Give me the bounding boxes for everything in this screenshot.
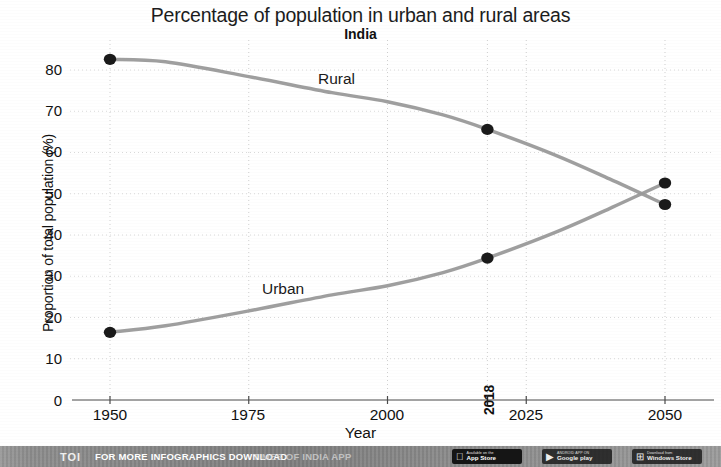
footer-brand-toi: TOI <box>60 446 81 467</box>
data-point-marker <box>659 177 671 188</box>
series-line-urban <box>110 183 665 332</box>
app-store-badge-label: App Store <box>467 455 497 461</box>
google-play-badge[interactable]: ▶ ANDROID APP ON Google play <box>542 449 612 464</box>
data-point-marker <box>659 199 671 210</box>
plot-area <box>0 0 721 441</box>
windows-store-badge-label: Windows Store <box>647 455 692 461</box>
data-point-marker <box>104 327 116 338</box>
app-store-badge[interactable]:  Available on the App Store <box>452 449 522 464</box>
data-point-marker <box>481 124 493 135</box>
windows-store-badge[interactable]: ⊞ Download from Windows Store <box>632 449 702 464</box>
windows-icon: ⊞ <box>636 452 644 462</box>
google-play-badge-label: Google play <box>557 455 592 461</box>
data-point-marker <box>104 54 116 65</box>
axis-lines <box>72 395 714 405</box>
footer-promo-banner: TOI FOR MORE INFOGRAPHICS DOWNLOAD TIMES… <box>0 446 721 467</box>
apple-icon:  <box>456 452 464 462</box>
footer-app-name: TIMES OF INDIA APP <box>253 446 351 467</box>
series-lines <box>110 59 665 332</box>
chart-figure: Percentage of population in urban and ru… <box>0 0 721 441</box>
play-triangle-icon: ▶ <box>546 452 554 462</box>
gridlines <box>70 40 712 400</box>
series-line-rural <box>110 59 665 204</box>
data-point-marker <box>481 253 493 264</box>
